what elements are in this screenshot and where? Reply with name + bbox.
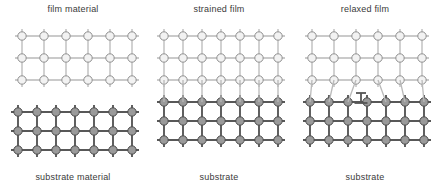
substrate-atom — [274, 136, 282, 144]
film-atom — [160, 32, 168, 40]
film-atom — [18, 54, 26, 62]
film-atom — [374, 32, 382, 40]
lattice-film-material — [0, 0, 146, 190]
film-atom — [128, 54, 136, 62]
film-atom — [40, 76, 48, 84]
film-atom — [62, 76, 70, 84]
substrate-atom — [382, 136, 390, 144]
film-atom — [160, 54, 168, 62]
substrate-atom — [14, 146, 22, 154]
substrate-atom — [325, 136, 333, 144]
substrate-atom — [90, 146, 98, 154]
film-atom — [84, 76, 92, 84]
lattice-relaxed-film: misfit dislocation — [292, 0, 438, 190]
substrate-atom — [14, 127, 22, 135]
substrate-atom — [217, 136, 225, 144]
substrate-atom — [344, 117, 352, 125]
film-atom — [274, 32, 282, 40]
substrate-atom — [420, 117, 428, 125]
film-atom — [106, 32, 114, 40]
panel-strained-film: strained film substrate — [146, 0, 292, 190]
substrate-atom — [255, 136, 263, 144]
substrate-atom — [128, 146, 136, 154]
substrate-atom — [420, 136, 428, 144]
substrate-atom — [160, 136, 168, 144]
substrate-atom — [109, 108, 117, 116]
substrate-atom — [274, 117, 282, 125]
substrate-atom — [179, 117, 187, 125]
substrate-lattice — [157, 95, 285, 147]
substrate-atom — [160, 117, 168, 125]
substrate-atom — [71, 146, 79, 154]
interface-bond — [348, 80, 356, 102]
film-lattice — [157, 29, 285, 87]
film-atom — [236, 54, 244, 62]
substrate-atom — [363, 136, 371, 144]
interface-bond — [378, 80, 386, 102]
film-atom — [352, 54, 360, 62]
substrate-atom — [382, 117, 390, 125]
film-atom — [179, 32, 187, 40]
film-atom — [198, 32, 206, 40]
film-atom — [374, 54, 382, 62]
substrate-atom — [33, 146, 41, 154]
film-atom — [84, 54, 92, 62]
substrate-atom — [217, 117, 225, 125]
substrate-atom — [401, 117, 409, 125]
film-atom — [352, 32, 360, 40]
substrate-atom — [128, 108, 136, 116]
panel-caption: substrate material — [0, 172, 146, 182]
substrate-atom — [236, 136, 244, 144]
substrate-atom — [71, 127, 79, 135]
film-atom — [106, 54, 114, 62]
film-atom — [236, 32, 244, 40]
film-atom — [255, 54, 263, 62]
film-atom — [84, 32, 92, 40]
film-atom — [18, 32, 26, 40]
substrate-atom — [14, 108, 22, 116]
film-atom — [217, 32, 225, 40]
panel-caption: substrate — [292, 172, 438, 182]
substrate-atom — [306, 136, 314, 144]
film-atom — [308, 54, 316, 62]
substrate-atom — [198, 136, 206, 144]
substrate-atom — [306, 117, 314, 125]
film-atom — [274, 54, 282, 62]
substrate-atom — [90, 127, 98, 135]
film-atom — [418, 32, 426, 40]
substrate-atom — [198, 117, 206, 125]
film-atom — [396, 54, 404, 62]
film-atom — [418, 54, 426, 62]
panel-caption: substrate — [146, 172, 292, 182]
film-lattice — [305, 29, 429, 87]
film-atom — [62, 54, 70, 62]
film-atom — [128, 32, 136, 40]
substrate-lattice — [11, 105, 139, 157]
substrate-atom — [344, 136, 352, 144]
film-atom — [330, 54, 338, 62]
substrate-atom — [325, 117, 333, 125]
substrate-atom — [71, 108, 79, 116]
film-atom — [308, 32, 316, 40]
substrate-atom — [52, 108, 60, 116]
panel-film-material: film material substrate material — [0, 0, 146, 190]
panel-relaxed-film: relaxed film misfit dislocation substrat… — [292, 0, 438, 190]
film-atom — [330, 32, 338, 40]
substrate-atom — [128, 127, 136, 135]
substrate-atom — [255, 117, 263, 125]
film-atom — [40, 32, 48, 40]
substrate-atom — [401, 136, 409, 144]
film-atom — [217, 54, 225, 62]
film-atom — [106, 76, 114, 84]
substrate-atom — [33, 108, 41, 116]
substrate-atom — [52, 127, 60, 135]
film-atom — [62, 32, 70, 40]
film-atom — [18, 76, 26, 84]
substrate-atom — [33, 127, 41, 135]
lattice-diagram: film material substrate material straine… — [0, 0, 438, 190]
substrate-atom — [109, 127, 117, 135]
lattice-strained-film — [146, 0, 292, 190]
substrate-atom — [363, 98, 371, 106]
substrate-atom — [179, 136, 187, 144]
substrate-atom — [236, 117, 244, 125]
